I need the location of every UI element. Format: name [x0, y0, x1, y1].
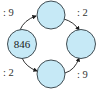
op-label-left-to-bottom: : 2: [3, 67, 14, 78]
edge-left-to-bottom: [22, 58, 37, 71]
op-label-top-to-right: : 2: [77, 7, 88, 18]
edge-left-to-top: [20, 16, 36, 30]
node-left-value: 846: [14, 38, 31, 50]
edge-top-to-right: [64, 19, 79, 30]
operation-diagram: 846 : 9 : 2 : 2 : 9: [0, 0, 99, 89]
op-label-left-to-top: : 9: [3, 7, 14, 18]
node-bottom: [37, 60, 65, 88]
node-top: [37, 1, 65, 29]
node-right: [67, 30, 96, 59]
op-label-bottom-to-right: : 9: [77, 69, 88, 80]
